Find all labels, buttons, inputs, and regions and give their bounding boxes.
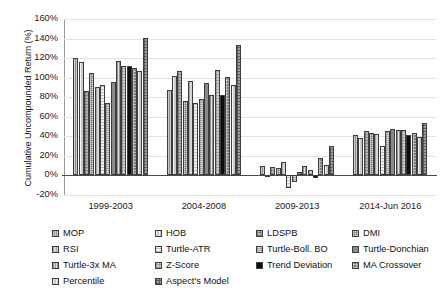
- bar: [236, 45, 241, 175]
- bar: [329, 146, 334, 175]
- legend-swatch-icon: [155, 246, 162, 253]
- bar: [380, 146, 385, 175]
- bar: [270, 167, 275, 176]
- legend-item[interactable]: MOP: [52, 228, 84, 238]
- legend-swatch-icon: [52, 230, 59, 237]
- x-axis-tick-label: 1999-2003: [64, 201, 157, 211]
- legend-item-label: RSI: [63, 244, 79, 254]
- legend-item-label: Trend Deviation: [267, 260, 332, 270]
- bar: [396, 130, 401, 175]
- legend-swatch-icon: [352, 262, 359, 269]
- gridline: [64, 195, 437, 196]
- legend-item[interactable]: Turtle-ATR: [155, 244, 210, 254]
- y-axis-tick-label: -20%: [0, 190, 58, 199]
- bar: [188, 81, 193, 176]
- legend-swatch-icon: [352, 230, 359, 237]
- bar: [302, 166, 307, 176]
- bar: [353, 135, 358, 175]
- bar: [412, 133, 417, 175]
- bar: [143, 38, 148, 176]
- legend-item[interactable]: Z-Score: [155, 260, 199, 270]
- bar: [422, 123, 427, 176]
- bar: [127, 66, 132, 176]
- legend-item-label: Aspect's Model: [166, 276, 229, 286]
- bar: [318, 158, 323, 176]
- bar: [406, 135, 411, 175]
- legend-item[interactable]: Aspect's Model: [155, 276, 229, 286]
- bar: [265, 175, 270, 177]
- bar: [401, 130, 406, 175]
- legend-item-label: Turtle-ATR: [166, 244, 210, 254]
- bar: [297, 172, 302, 176]
- bar: [199, 99, 204, 175]
- legend-swatch-icon: [52, 246, 59, 253]
- y-axis-tick-label: 140%: [0, 34, 58, 43]
- bar: [364, 131, 369, 175]
- plot-area: -20%0%20%40%60%80%100%120%140%160%: [64, 19, 437, 195]
- legend-item-label: MOP: [63, 228, 84, 238]
- legend-item-label: MA Crossover: [363, 260, 421, 270]
- bar: [260, 166, 265, 176]
- x-axis-tick-label: 2004-2008: [157, 201, 250, 211]
- legend-item[interactable]: Percentile: [52, 276, 104, 286]
- legend-item[interactable]: LDSPB: [256, 228, 298, 238]
- y-axis-tick-label: 120%: [0, 53, 58, 62]
- x-axis-tick-label: 2014-Jun 2016: [344, 201, 437, 211]
- legend-item[interactable]: Trend Deviation: [256, 260, 332, 270]
- y-axis-tick-label: 160%: [0, 14, 58, 23]
- bar: [183, 101, 188, 175]
- legend-item-label: DMI: [363, 228, 380, 238]
- legend-item[interactable]: HOB: [155, 228, 186, 238]
- bar: [177, 71, 182, 176]
- legend-item-label: HOB: [166, 228, 186, 238]
- bar: [231, 85, 236, 175]
- bar: [215, 70, 220, 176]
- legend-swatch-icon: [52, 278, 59, 285]
- bar: [105, 103, 110, 175]
- y-axis-tick-label: 40%: [0, 131, 58, 140]
- bar: [225, 77, 230, 176]
- legend-item[interactable]: MA Crossover: [352, 260, 421, 270]
- legend-item-label: Turtle-3x MA: [63, 260, 116, 270]
- bar: [100, 85, 105, 175]
- legend-item[interactable]: RSI: [52, 244, 79, 254]
- bar: [358, 138, 363, 175]
- legend-item[interactable]: Turtle-3x MA: [52, 260, 116, 270]
- y-axis-tick-label: 0%: [0, 170, 58, 179]
- bar: [89, 73, 94, 176]
- y-axis-tick-label: 60%: [0, 112, 58, 121]
- bar: [79, 62, 84, 175]
- legend-item-label: LDSPB: [267, 228, 298, 238]
- legend-item[interactable]: Turtle-Donchian: [352, 244, 429, 254]
- bar: [374, 134, 379, 175]
- bar: [132, 68, 137, 176]
- bar: [417, 137, 422, 175]
- legend-item[interactable]: Turtle-Boll. BO: [256, 244, 328, 254]
- bar: [95, 87, 100, 175]
- legend-item-label: Z-Score: [166, 260, 199, 270]
- bar: [137, 71, 142, 176]
- bar: [167, 90, 172, 175]
- bar: [172, 76, 177, 176]
- chart-legend: MOPRSITurtle-3x MAPercentileHOBTurtle-AT…: [52, 228, 441, 290]
- bar: [292, 175, 297, 182]
- legend-swatch-icon: [52, 262, 59, 269]
- legend-item[interactable]: DMI: [352, 228, 380, 238]
- legend-swatch-icon: [352, 246, 359, 253]
- legend-swatch-icon: [256, 246, 263, 253]
- bar: [385, 131, 390, 175]
- legend-swatch-icon: [155, 230, 162, 237]
- bar: [286, 175, 291, 188]
- bar: [369, 133, 374, 175]
- bar-group: [251, 19, 344, 195]
- bar-group: [344, 19, 437, 195]
- bar: [209, 95, 214, 175]
- y-axis-tick-label: 20%: [0, 151, 58, 160]
- bar: [204, 83, 209, 176]
- bar-chart: Cumulative Uncompounded Return (%) -20%0…: [0, 0, 441, 293]
- bar: [121, 66, 126, 176]
- bar: [193, 103, 198, 175]
- bar: [281, 162, 286, 176]
- legend-swatch-icon: [155, 278, 162, 285]
- bar: [220, 95, 225, 175]
